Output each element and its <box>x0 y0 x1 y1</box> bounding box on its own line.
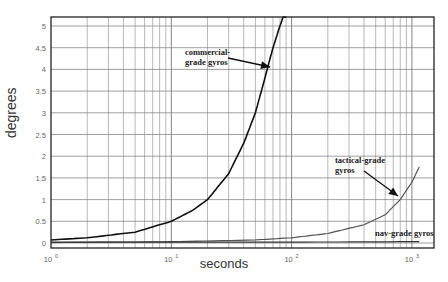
y-tick-label: 1.5 <box>36 174 46 183</box>
y-tick-label: 1 <box>42 196 46 205</box>
y-tick-label: 0.5 <box>36 217 46 226</box>
y-tick-label: 3 <box>42 109 46 118</box>
annotation-commercial-grade: grade gyros <box>185 57 228 67</box>
y-tick-label: 0 <box>42 239 46 248</box>
y-tick-label: 3.5 <box>36 87 46 96</box>
annotation-nav-grade: nav-grade gyros <box>375 228 434 238</box>
y-tick-label: 5 <box>42 22 46 31</box>
annotation-tactical-grade: gyros <box>335 165 355 175</box>
commercial-grade-curve <box>51 17 286 240</box>
y-axis-label: degrees <box>3 87 19 138</box>
arrow-tactical-grade-head <box>388 187 398 196</box>
y-tick-label: 2.5 <box>36 131 46 140</box>
y-tick-label: 2 <box>42 152 46 161</box>
chart-canvas: 00.511.522.533.544.55100101102103commerc… <box>0 0 448 282</box>
annotation-tactical-grade: tactical-grade <box>335 155 385 165</box>
annotation-commercial-grade: commercial- <box>185 47 230 57</box>
y-tick-label: 4 <box>42 65 46 74</box>
y-tick-label: 4.5 <box>36 44 46 53</box>
x-axis-label: seconds <box>0 256 448 271</box>
